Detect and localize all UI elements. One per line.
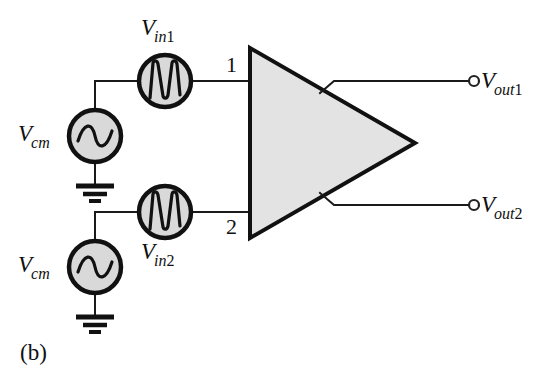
- wire-vcm-bottom-to-vin2: [95, 212, 139, 241]
- terminal-vout2: [469, 200, 479, 210]
- label-vout2: Vout2: [481, 193, 524, 219]
- source-vin1: [139, 55, 191, 107]
- amplifier-triangle: [250, 48, 415, 238]
- label-vout1: Vout1: [481, 69, 524, 95]
- figure-caption: (b): [20, 340, 47, 366]
- terminal-vout1: [469, 76, 479, 86]
- amplifier-port-label-1: 1: [226, 52, 237, 78]
- figure-differential-amplifier: Vcm Vcm Vin1 Vin2 Vout1 Vout2 1 2 (b): [0, 0, 553, 378]
- wire-amp-to-vout1: [320, 81, 470, 93]
- label-vcm-top: Vcm: [18, 122, 51, 148]
- label-vcm-bottom: Vcm: [18, 253, 51, 279]
- source-vin2: [139, 186, 191, 238]
- wire-amp-to-vout2: [320, 193, 470, 205]
- source-vcm-top: [69, 110, 121, 162]
- amplifier-port-label-2: 2: [226, 214, 237, 240]
- ground-symbol-bottom: [76, 317, 114, 332]
- label-vin2: Vin2: [141, 240, 176, 266]
- source-vcm-bottom: [69, 241, 121, 293]
- circuit-schematic-svg: [0, 0, 553, 378]
- wire-vcm-top-to-vin1: [95, 81, 139, 110]
- ground-symbol-top: [76, 186, 114, 201]
- label-vin1: Vin1: [141, 16, 176, 42]
